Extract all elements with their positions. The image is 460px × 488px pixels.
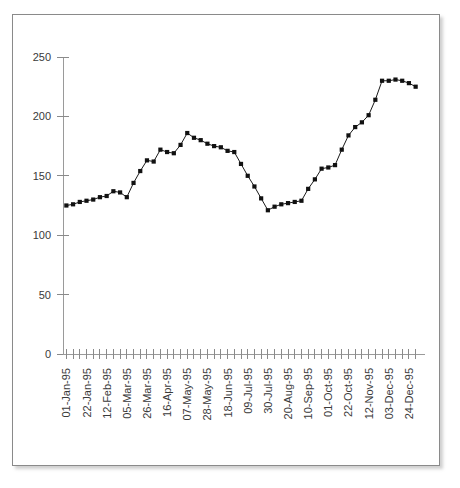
data-point <box>91 197 95 201</box>
data-point <box>380 79 384 83</box>
x-tick-label: 05-Mar-95 <box>121 368 133 419</box>
y-tick-label: 250 <box>33 51 51 63</box>
x-tick-label: 20-Aug-95 <box>282 368 294 419</box>
x-tick-label: 24-Dec-95 <box>403 368 415 419</box>
data-point <box>320 167 324 171</box>
data-point <box>293 200 297 204</box>
data-point <box>84 199 88 203</box>
x-tick-label: 01-Jan-95 <box>60 368 72 418</box>
x-tick-labels: 01-Jan-9522-Jan-9512-Feb-9505-Mar-9526-M… <box>60 368 415 421</box>
data-point <box>78 200 82 204</box>
data-point <box>192 136 196 140</box>
x-tick-label: 01-Oct-95 <box>322 368 334 417</box>
data-point <box>185 131 189 135</box>
x-tick-label: 10-Sep-95 <box>302 368 314 419</box>
x-tick-label: 03-Dec-95 <box>383 368 395 419</box>
x-tick-label: 12-Feb-95 <box>101 368 113 419</box>
chart-page: 01-Jan-9522-Jan-9512-Feb-9505-Mar-9526-M… <box>0 0 460 488</box>
data-point <box>125 195 129 199</box>
x-tick-label: 09-Jul-95 <box>242 368 254 414</box>
y-tick-label: 200 <box>33 110 51 122</box>
data-point <box>172 151 176 155</box>
data-point <box>333 163 337 167</box>
x-tick-label: 16-Apr-95 <box>161 368 173 417</box>
data-point <box>232 150 236 154</box>
data-point <box>286 201 290 205</box>
data-point <box>346 133 350 137</box>
data-point <box>205 142 209 146</box>
data-point <box>212 144 216 148</box>
data-point <box>225 149 229 153</box>
data-point <box>272 205 276 209</box>
data-point <box>259 196 263 200</box>
data-point <box>299 199 303 203</box>
data-point <box>414 85 418 89</box>
x-tick-label: 22-Oct-95 <box>342 368 354 417</box>
y-tick-label: 0 <box>45 348 51 360</box>
data-point <box>165 150 169 154</box>
data-point <box>360 120 364 124</box>
x-axis <box>63 349 425 359</box>
data-point <box>373 98 377 102</box>
y-tick-labels: 050100150200250 <box>33 51 51 360</box>
x-tick-label: 28-May-95 <box>201 368 213 421</box>
data-point <box>219 145 223 149</box>
data-point <box>306 187 310 191</box>
x-tick-label: 07-May-95 <box>181 368 193 421</box>
x-tick-label: 30-Jul-95 <box>262 368 274 414</box>
data-point <box>199 138 203 142</box>
data-point <box>367 113 371 117</box>
data-point <box>118 190 122 194</box>
data-point <box>158 148 162 152</box>
data-point <box>131 181 135 185</box>
x-tick-label: 18-Jun-95 <box>222 368 234 418</box>
data-point <box>313 177 317 181</box>
x-tick-label: 26-Mar-95 <box>141 368 153 419</box>
line-chart: 01-Jan-9522-Jan-9512-Feb-9505-Mar-9526-M… <box>13 15 439 465</box>
data-series <box>64 77 417 212</box>
data-point <box>393 77 397 81</box>
data-point <box>152 159 156 163</box>
data-point <box>407 81 411 85</box>
y-tick-label: 50 <box>39 289 51 301</box>
data-point <box>353 125 357 129</box>
data-point <box>105 194 109 198</box>
data-point <box>64 203 68 207</box>
data-point <box>400 79 404 83</box>
data-point <box>239 162 243 166</box>
data-point <box>266 208 270 212</box>
data-point <box>387 79 391 83</box>
data-point <box>111 189 115 193</box>
data-point <box>71 202 75 206</box>
data-point <box>98 195 102 199</box>
data-point <box>246 174 250 178</box>
data-point <box>178 143 182 147</box>
data-point <box>145 158 149 162</box>
data-point <box>279 202 283 206</box>
data-point <box>252 184 256 188</box>
y-tick-label: 100 <box>33 229 51 241</box>
data-point <box>340 148 344 152</box>
figure-frame: 01-Jan-9522-Jan-9512-Feb-9505-Mar-9526-M… <box>12 14 440 466</box>
y-tick-label: 150 <box>33 170 51 182</box>
data-point <box>326 165 330 169</box>
x-tick-label: 12-Nov-95 <box>363 368 375 419</box>
data-point <box>138 169 142 173</box>
x-tick-label: 22-Jan-95 <box>81 368 93 418</box>
